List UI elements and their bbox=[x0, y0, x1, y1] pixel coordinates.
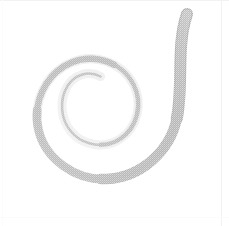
spiral-graphic bbox=[0, 0, 229, 226]
frame-bottom-edge bbox=[0, 217, 229, 218]
frame-top-edge bbox=[0, 0, 229, 1]
frame-left-edge bbox=[2, 0, 3, 226]
image-canvas bbox=[0, 0, 229, 226]
frame-right-edge bbox=[221, 0, 222, 226]
